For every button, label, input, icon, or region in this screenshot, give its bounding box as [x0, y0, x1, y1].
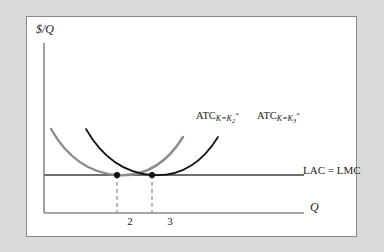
- chart-panel: [26, 16, 357, 237]
- x-axis-title: Q: [310, 200, 319, 215]
- atc-k3-label: ATCK=K3*: [257, 110, 300, 124]
- chart-plot-area: [27, 17, 356, 236]
- atc-k2-label: ATCK=K2*: [196, 110, 239, 124]
- atc-k2-star: *: [235, 111, 239, 119]
- atc-curve-k2: [51, 129, 183, 175]
- tangency-point-q2: [114, 172, 120, 178]
- atc-k3-base: ATC: [257, 110, 277, 121]
- atc-k2-base: ATC: [196, 110, 216, 121]
- atc-k3-star: *: [296, 111, 300, 119]
- lac-lmc-label: LAC = LMC: [303, 164, 361, 176]
- figure-root: $/Q Q LAC = LMC 2 3 ATCK=K2* ATCK=K3*: [0, 0, 384, 252]
- y-axis-title: $/Q: [36, 22, 54, 37]
- tangency-point-q3: [149, 172, 155, 178]
- x-tick-label-2: 2: [123, 215, 137, 227]
- x-tick-label-3: 3: [163, 215, 177, 227]
